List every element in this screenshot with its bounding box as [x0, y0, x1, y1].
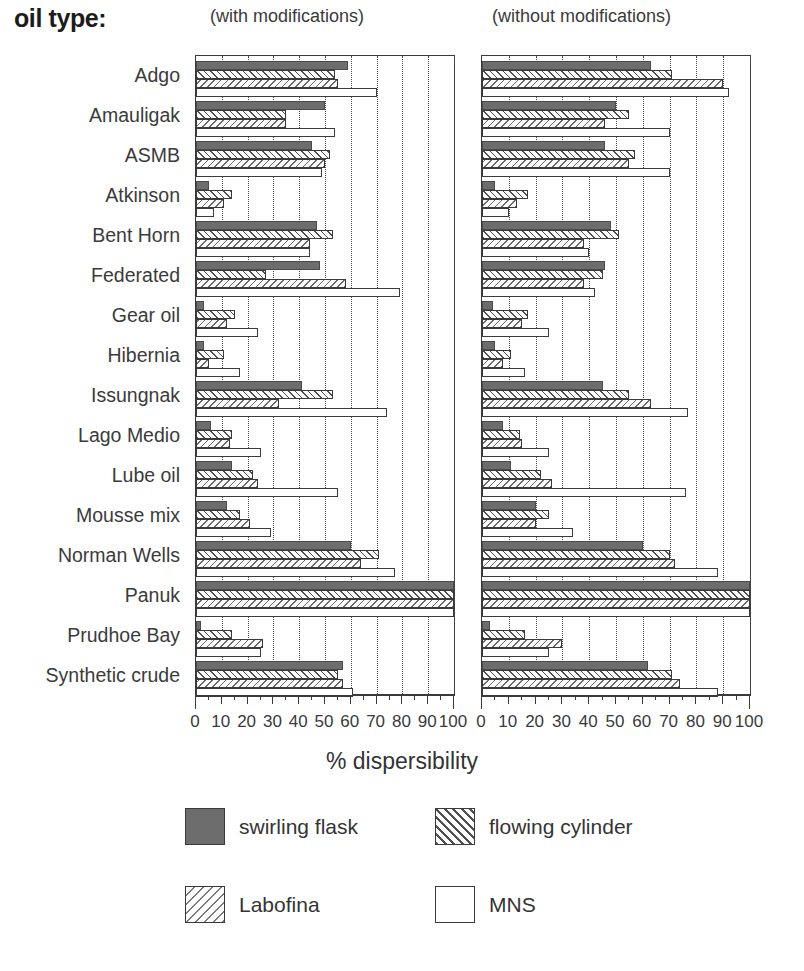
bar-labofina: [482, 359, 503, 368]
bar-labofina: [482, 119, 605, 128]
bar-swirling-flask: [196, 621, 201, 630]
bar-flowing-cylinder: [482, 470, 541, 479]
bar-group-synthetic-crude: [196, 656, 454, 696]
bar-group-issungnak: [196, 376, 454, 416]
x-tick-label-0: 0: [190, 712, 199, 732]
bar-flowing-cylinder: [196, 590, 454, 599]
bar-swirling-flask: [482, 261, 605, 270]
x-tick-minor-25: [260, 695, 261, 700]
bar-flowing-cylinder: [482, 550, 670, 559]
y-axis-label-lube-oil: Lube oil: [112, 464, 180, 487]
bar-labofina: [196, 239, 310, 248]
x-axis-cap-left: [195, 695, 196, 709]
x-axis-right: [481, 695, 751, 711]
x-tick-label-0: 0: [476, 712, 485, 732]
x-tick-label-100: 100: [735, 712, 763, 732]
bar-swirling-flask: [482, 661, 648, 670]
bar-swirling-flask: [196, 541, 351, 550]
x-tick-minor-15: [521, 695, 522, 700]
y-axis-label-gear-oil: Gear oil: [112, 304, 180, 327]
bar-group-bent-horn: [196, 216, 454, 256]
x-tick-label-70: 70: [366, 712, 385, 732]
bar-flowing-cylinder: [482, 150, 635, 159]
x-tick-70: [376, 695, 377, 704]
bar-swirling-flask: [482, 141, 605, 150]
x-axis-title: % dispersibility: [0, 748, 804, 775]
bar-labofina: [482, 439, 522, 448]
bar-flowing-cylinder: [196, 150, 330, 159]
bar-labofina: [482, 199, 517, 208]
bar-swirling-flask: [196, 141, 312, 150]
bar-group-prudhoe-bay: [482, 616, 750, 656]
bar-group-prudhoe-bay: [196, 616, 454, 656]
bar-group-atkinson: [196, 176, 454, 216]
x-tick-minor-45: [602, 695, 603, 700]
x-tick-minor-75: [389, 695, 390, 700]
x-tick-30: [272, 695, 273, 704]
bar-labofina: [482, 559, 675, 568]
x-tick-90: [722, 695, 723, 704]
bar-flowing-cylinder: [482, 590, 750, 599]
y-axis-label-asmb: ASMB: [125, 144, 180, 167]
bar-group-gear-oil: [482, 296, 750, 336]
bar-group-lago-medio: [482, 416, 750, 456]
legend-item-flowing-cylinder: flowing cylinder: [435, 808, 633, 845]
bar-labofina: [196, 199, 224, 208]
bar-labofina: [482, 639, 562, 648]
bar-labofina: [196, 679, 343, 688]
x-tick-minor-5: [208, 695, 209, 700]
bar-labofina: [196, 639, 263, 648]
x-tick-40: [298, 695, 299, 704]
bar-group-issungnak: [482, 376, 750, 416]
bar-flowing-cylinder: [482, 310, 528, 319]
bar-group-asmb: [196, 136, 454, 176]
bar-flowing-cylinder: [482, 110, 629, 119]
bar-flowing-cylinder: [196, 390, 333, 399]
bar-group-atkinson: [482, 176, 750, 216]
bar-group-lube-oil: [482, 456, 750, 496]
bar-labofina: [196, 599, 454, 608]
bar-flowing-cylinder: [196, 510, 240, 519]
bar-labofina: [482, 159, 629, 168]
chart-panel-without-modifications: [481, 55, 751, 695]
bar-swirling-flask: [196, 341, 204, 350]
x-tick-minor-25: [548, 695, 549, 700]
x-tick-label-60: 60: [340, 712, 359, 732]
x-axis-cap-right: [749, 695, 750, 709]
bar-swirling-flask: [482, 621, 490, 630]
gridline-100: [750, 56, 751, 694]
bar-swirling-flask: [482, 61, 651, 70]
bar-flowing-cylinder: [482, 670, 672, 679]
x-tick-20: [535, 695, 536, 704]
legend-swatch-mns-icon: [435, 886, 475, 923]
x-tick-label-50: 50: [315, 712, 334, 732]
bar-group-hibernia: [196, 336, 454, 376]
bar-labofina: [196, 399, 279, 408]
bar-group-norman-wells: [196, 536, 454, 576]
bar-group-gear-oil: [196, 296, 454, 336]
bar-swirling-flask: [482, 461, 511, 470]
bar-flowing-cylinder: [482, 390, 629, 399]
bar-labofina: [196, 439, 230, 448]
legend-item-mns: MNS: [435, 886, 536, 923]
x-tick-minor-15: [234, 695, 235, 700]
bar-flowing-cylinder: [196, 470, 253, 479]
bar-flowing-cylinder: [196, 310, 235, 319]
bar-flowing-cylinder: [196, 190, 232, 199]
bar-labofina: [482, 79, 723, 88]
bar-group-panuk: [482, 576, 750, 616]
page-title: oil type:: [14, 4, 106, 33]
bar-labofina: [196, 519, 250, 528]
legend-item-swirling-flask: swirling flask: [185, 808, 358, 845]
x-tick-label-60: 60: [632, 712, 651, 732]
x-tick-minor-65: [363, 695, 364, 700]
bar-group-adgo: [482, 56, 750, 96]
x-tick-label-100: 100: [439, 712, 467, 732]
x-tick-label-90: 90: [713, 712, 732, 732]
bar-swirling-flask: [196, 661, 343, 670]
y-axis-label-panuk: Panuk: [125, 584, 180, 607]
bar-swirling-flask: [196, 221, 317, 230]
x-axis-left: [195, 695, 455, 711]
bar-labofina: [482, 239, 584, 248]
bar-labofina: [196, 79, 338, 88]
